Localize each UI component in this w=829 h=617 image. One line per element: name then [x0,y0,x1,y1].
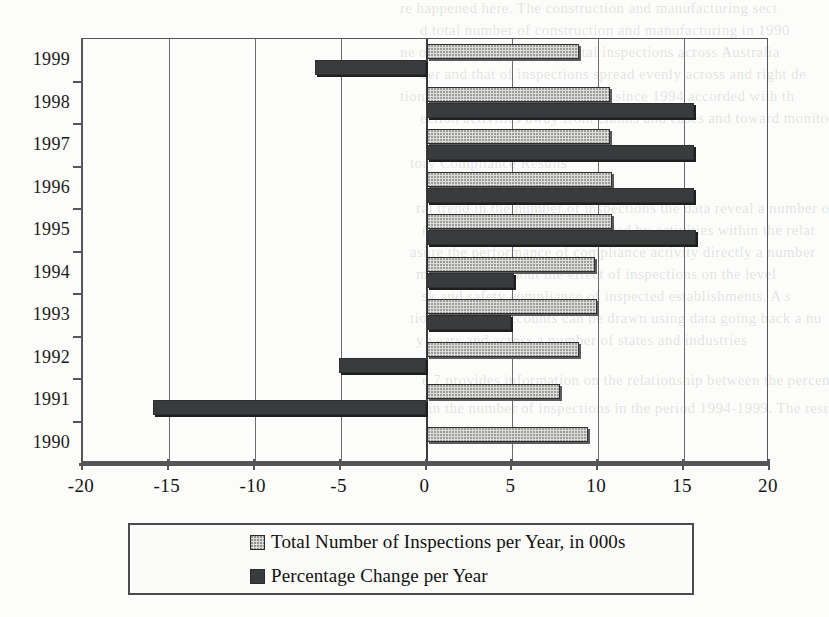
x-tick-label--5: -5 [330,475,347,497]
y-tick-label-1999: 1999 [33,50,70,68]
x-axis: -20-15-10-505101520 [79,463,770,503]
bar-row-1990 [83,422,767,465]
chart-page: re happened here. The construction and m… [0,0,829,617]
legend-swatch-dark [250,569,265,584]
y-tick-9 [73,421,81,423]
bar-inspections-1992 [427,342,580,357]
plot-area [81,38,768,463]
bar-inspections-1994 [427,257,595,272]
bar-percentage-1995 [427,230,697,245]
y-tick-label-1991: 1991 [33,390,70,408]
legend-label-percentage: Percentage Change per Year [271,565,488,587]
bar-row-1996 [83,167,767,210]
x-tick--20 [81,459,83,470]
bar-inspections-1995 [427,214,612,229]
bar-inspections-1996 [427,172,612,187]
y-tick-label-1995: 1995 [33,220,70,238]
y-tick-label-1993: 1993 [33,305,70,323]
bar-row-1997 [83,124,767,167]
bar-inspections-1998 [427,87,611,102]
bar-inspections-1997 [427,129,611,144]
bar-percentage-1997 [427,145,695,160]
x-tick-label--20: -20 [68,475,95,497]
y-tick-5 [73,251,81,253]
y-tick-4 [73,208,81,210]
y-tick-label-1990: 1990 [33,433,70,451]
y-tick-label-1992: 1992 [33,348,70,366]
y-tick-6 [73,293,81,295]
bar-percentage-1996 [427,188,695,203]
y-tick-8 [73,378,81,380]
x-tick--5 [339,459,341,470]
x-tick-label-15: 15 [672,475,692,497]
y-tick-2 [73,123,81,125]
x-tick-15 [682,459,684,470]
bar-row-1994 [83,252,767,295]
bar-percentage-1999 [315,60,427,75]
x-tick-label--10: -10 [239,475,266,497]
x-tick-20 [768,459,770,470]
bleed-line-1: d total number of construction and manuf… [420,22,790,39]
bar-row-1995 [83,209,767,252]
bar-inspections-1993 [427,299,597,314]
y-tick-label-1994: 1994 [33,263,70,281]
y-tick-label-1997: 1997 [33,135,70,153]
bar-inspections-1999 [427,44,580,59]
bar-percentage-1994 [427,273,515,288]
bar-inspections-1990 [427,427,588,442]
bleed-line-0: re happened here. The construction and m… [400,0,777,17]
legend-label-inspections: Total Number of Inspections per Year, in… [271,531,625,553]
legend-swatch-light [250,535,265,550]
y-tick-label-1996: 1996 [33,178,70,196]
x-tick-label--15: -15 [154,475,181,497]
x-tick-0 [425,459,427,470]
plot-inner [83,39,767,461]
bar-row-1993 [83,294,767,337]
x-tick--15 [167,459,169,470]
y-tick-3 [73,166,81,168]
y-tick-1 [73,81,81,83]
legend-item-percentage: Percentage Change per Year [130,559,692,593]
bar-percentage-1992 [339,358,427,373]
x-tick--10 [253,459,255,470]
y-tick-label-1998: 1998 [33,93,70,111]
y-axis: 1999199819971996199519941993199219911990 [0,38,78,463]
chart-legend: Total Number of Inspections per Year, in… [128,523,694,595]
y-tick-7 [73,336,81,338]
x-tick-label-0: 0 [420,475,430,497]
x-tick-10 [596,459,598,470]
bar-row-1998 [83,82,767,125]
x-tick-label-10: 10 [586,475,606,497]
bar-percentage-1991 [153,400,426,415]
bar-percentage-1998 [427,103,695,118]
x-tick-5 [510,459,512,470]
bar-row-1999 [83,39,767,82]
bar-row-1992 [83,337,767,380]
legend-item-inspections: Total Number of Inspections per Year, in… [130,525,692,559]
bar-percentage-1993 [427,315,511,330]
x-tick-label-20: 20 [758,475,778,497]
bar-row-1991 [83,379,767,422]
x-tick-label-5: 5 [505,475,515,497]
bar-inspections-1991 [427,384,561,399]
